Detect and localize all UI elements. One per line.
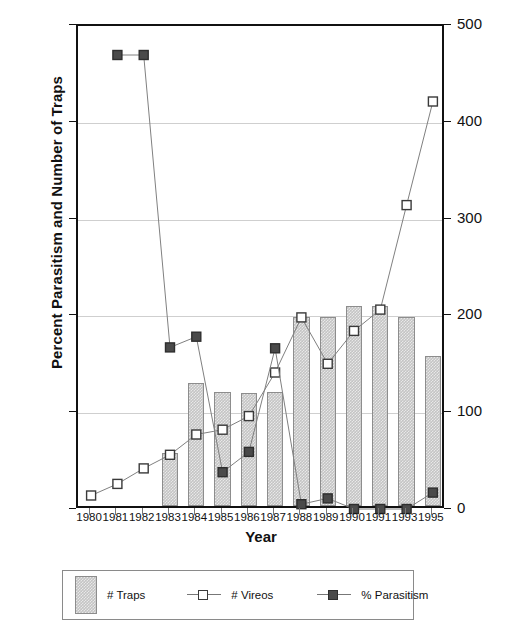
x-axis-tickmark-1985 (221, 508, 222, 515)
x-axis-tickmark-1995 (431, 508, 432, 515)
y-axis-right-tickmark-200 (444, 314, 451, 315)
legend-item-traps: # Traps (75, 576, 145, 614)
x-axis-tickmark-1982 (142, 508, 143, 515)
datapoint-1989: # Vireos 1989: 151 (323, 359, 332, 368)
chart-figure: Percent Parasitism and Number of Traps N… (0, 0, 522, 644)
plot-area: # Vireos 1980: 15# Vireos 1981: 27# Vire… (76, 24, 444, 508)
bar-swatch-icon (75, 576, 97, 614)
open-square-line-icon (187, 588, 221, 602)
y-axis-right-tick-200: 200 (457, 306, 517, 321)
datapoint-1981: # Vireos 1981: 27 (113, 479, 122, 488)
datapoint-1985: # Vireos 1985: 83 (218, 425, 227, 434)
chart-legend: # Traps # Vireos % Parasitism (62, 570, 414, 620)
x-axis-tickmark-1987 (273, 508, 274, 515)
x-axis-title: Year (0, 528, 522, 545)
datapoint-1990: # Vireos 1990: 185 (350, 326, 359, 335)
y-axis-right-tickmark-400 (444, 121, 451, 122)
y-axis-right-tickmark-300 (444, 218, 451, 219)
datapoint-1986: % Parasitism 1986: 6 (244, 447, 253, 456)
x-axis-tickmark-1989 (326, 508, 327, 515)
filled-square-line-icon (317, 588, 351, 602)
datapoint-1983: # Vireos 1983: 57 (166, 450, 175, 459)
y-axis-right-tickmark-500 (444, 24, 451, 25)
series-line (91, 102, 433, 496)
y-axis-right-tick-300: 300 (457, 210, 517, 225)
legend-item-vireos: # Vireos (187, 588, 273, 602)
datapoint-1995: # Vireos 1995: 422 (428, 97, 437, 106)
datapoint-1989: % Parasitism 1989: 1.2 (323, 494, 332, 503)
datapoint-1993: # Vireos 1993: 315 (402, 201, 411, 210)
y-axis-left-tickmark-10 (69, 411, 76, 412)
y-axis-left-tickmark-30 (69, 218, 76, 219)
y-axis-left-title: Percent Parasitism and Number of Traps (48, 33, 65, 413)
x-axis-tickmark-1980 (89, 508, 90, 515)
series-line (117, 55, 433, 509)
legend-label-traps: # Traps (107, 589, 145, 601)
datapoint-1982: # Vireos 1982: 43 (139, 464, 148, 473)
x-axis-tickmark-1988 (299, 508, 300, 515)
y-axis-right-tick-0: 0 (457, 500, 517, 515)
legend-item-parasitism: % Parasitism (317, 588, 428, 602)
legend-label-parasitism: % Parasitism (361, 589, 428, 601)
y-axis-right-tick-100: 100 (457, 403, 517, 418)
datapoint-1983: % Parasitism 1983: 16.8 (166, 343, 175, 352)
x-axis-tickmark-1986 (247, 508, 248, 515)
datapoint-1995: % Parasitism 1995: 1.8 (428, 488, 437, 497)
x-axis-tickmark-1990 (352, 508, 353, 515)
datapoint-1980: # Vireos 1980: 15 (87, 491, 96, 500)
y-axis-left-tickmark-20 (69, 314, 76, 315)
y-axis-right-tick-400: 400 (457, 113, 517, 128)
datapoint-1988: % Parasitism 1988: 0.6 (297, 500, 306, 509)
y-axis-right-tickmark-100 (444, 411, 451, 412)
x-axis-tickmark-1984 (194, 508, 195, 515)
datapoint-1982: % Parasitism 1982: 47 (139, 51, 148, 60)
series-parasitism: % Parasitism 1981: 47% Parasitism 1982: … (113, 51, 438, 514)
datapoint-1985: % Parasitism 1985: 3.9 (218, 468, 227, 477)
series-vireos: # Vireos 1980: 15# Vireos 1981: 27# Vire… (87, 97, 438, 500)
datapoint-1991: # Vireos 1991: 207 (376, 305, 385, 314)
datapoint-1984: # Vireos 1984: 78 (192, 430, 201, 439)
datapoint-1984: % Parasitism 1984: 17.9 (192, 332, 201, 341)
y-axis-left-tickmark-50 (69, 24, 76, 25)
x-axis-tickmark-1993 (405, 508, 406, 515)
datapoint-1988: # Vireos 1988: 199 (297, 313, 306, 322)
datapoint-1987: % Parasitism 1987: 16.7 (271, 344, 280, 353)
x-axis-tickmark-1991 (378, 508, 379, 515)
y-axis-right-tick-500: 500 (457, 16, 517, 31)
y-axis-left-tickmark-40 (69, 121, 76, 122)
datapoint-1986: # Vireos 1986: 97 (244, 412, 253, 421)
datapoint-1981: % Parasitism 1981: 47 (113, 51, 122, 60)
x-axis-tickmark-1981 (115, 508, 116, 515)
x-axis-tickmark-1983 (168, 508, 169, 515)
line-series-layer: # Vireos 1980: 15# Vireos 1981: 27# Vire… (78, 26, 446, 510)
y-axis-left-tickmark-0 (69, 508, 76, 509)
y-axis-right-tickmark-0 (444, 508, 451, 509)
legend-label-vireos: # Vireos (231, 589, 273, 601)
